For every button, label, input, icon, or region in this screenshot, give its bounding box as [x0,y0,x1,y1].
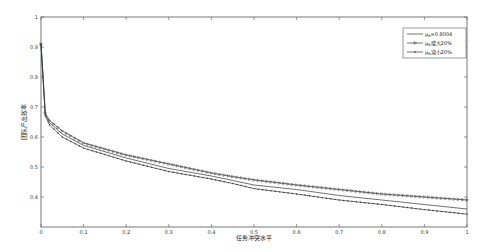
dot-marker [390,205,391,206]
dot-marker [377,203,378,204]
dot-marker [283,192,284,193]
dot-marker [296,193,297,194]
dot-marker [53,128,54,129]
dot-marker [143,165,144,166]
dot-marker [70,141,71,142]
dot-marker [164,170,165,171]
dot-marker [436,210,437,211]
dot-marker [253,188,254,189]
dot-marker [347,200,348,201]
dot-marker [79,145,80,146]
x-tick-label: 1 [465,229,468,235]
dot-marker [300,194,301,195]
x-tick-label: 0.7 [335,229,343,235]
dot-marker [330,198,331,199]
dot-marker [462,213,463,214]
dot-marker [292,193,293,194]
dot-marker [185,174,186,175]
y-tick-label: 0.9 [30,44,38,50]
dot-marker [275,191,276,192]
x-tick-label: 0.4 [207,229,215,235]
dot-marker [206,178,207,179]
dot-marker [454,212,455,213]
dot-marker [62,136,63,137]
dot-marker [394,205,395,206]
y-tick-label: 1 [35,14,38,20]
dot-marker [360,202,361,203]
dot-marker [189,175,190,176]
dot-marker [415,208,416,209]
y-tick-label: 0.6 [30,134,38,140]
dot-marker [130,161,131,162]
dot-marker [339,199,340,200]
dot-marker [194,175,195,176]
dot-marker [304,195,305,196]
dot-marker [402,206,403,207]
dot-marker [223,181,224,182]
dot-marker [381,204,382,205]
dot-marker [266,190,267,191]
dot-marker [147,166,148,167]
dot-marker [202,177,203,178]
dot-marker [262,189,263,190]
dot-marker [343,200,344,201]
dot-marker [424,209,425,210]
dot-marker [181,173,182,174]
y-tick-label: 0.7 [30,104,38,110]
dot-marker [351,201,352,202]
dot-marker [57,132,58,133]
x-tick-label: 0.9 [420,229,428,235]
dot-marker [279,191,280,192]
dot-marker [249,187,250,188]
dot-marker [134,162,135,163]
dot-marker [87,149,88,150]
y-axis-label: 团队产出效率 [20,104,28,140]
legend: μB=0.8004μB增大20%μB减小20% [403,28,466,58]
dot-marker [219,180,220,181]
dot-marker [356,201,357,202]
dot-marker [309,195,310,196]
dot-marker [385,204,386,205]
dot-marker [232,183,233,184]
dot-marker [236,184,237,185]
dot-marker [317,196,318,197]
dot-marker [407,207,408,208]
dot-marker [458,213,459,214]
y-tick-label: 0.5 [30,164,38,170]
dot-marker [160,169,161,170]
dot-marker [104,154,105,155]
x-tick-label: 0.6 [293,229,301,235]
dot-marker [245,186,246,187]
dot-marker [168,171,169,172]
x-tick-label: 0.2 [122,229,130,235]
x-tick-label: 0.3 [165,229,173,235]
dot-marker [228,182,229,183]
dot-marker [117,158,118,159]
dot-marker [138,163,139,164]
dot-marker [151,167,152,168]
dot-marker [368,202,369,203]
dot-marker [270,190,271,191]
dot-marker [45,115,46,116]
x-tick-label: 0.1 [80,229,88,235]
dot-marker [411,207,412,208]
dot-marker [100,153,101,154]
dot-marker [66,139,67,140]
dot-marker [49,124,50,125]
dot-marker [364,202,365,203]
dot-marker [121,159,122,160]
dot-marker [83,147,84,148]
dot-marker [155,168,156,169]
dot-marker [334,199,335,200]
dot-marker [313,196,314,197]
dot-marker [258,188,259,189]
dot-marker [441,211,442,212]
dot-marker [419,208,420,209]
dot-marker [449,212,450,213]
dot-marker [428,209,429,210]
dot-marker [108,155,109,156]
dot-marker [241,185,242,186]
dot-marker [321,197,322,198]
x-tick-label: 0.8 [378,229,386,235]
dot-marker [113,156,114,157]
